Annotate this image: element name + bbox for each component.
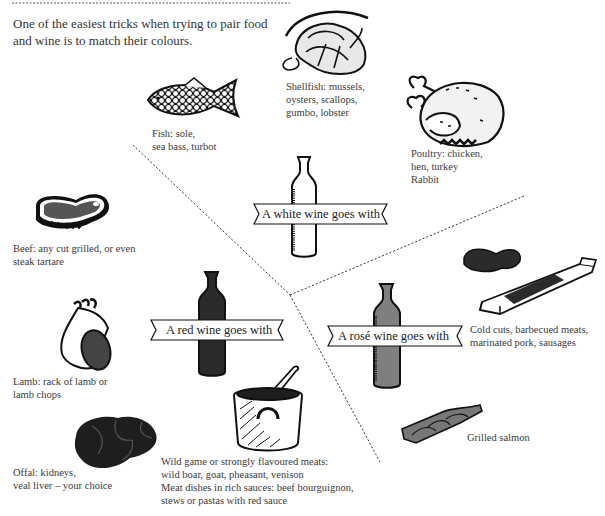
shellfish-caption: Shellfish: mussels, oysters, scallops, g…: [286, 80, 365, 119]
poultry-caption: Poultry: chicken, hen, turkey Rabbit: [411, 147, 483, 186]
red-wine-label: A red wine goes with: [162, 323, 276, 338]
steak-icon: [30, 190, 115, 236]
lamb-caption: Lamb: rack of lamb or lamb chops: [13, 375, 107, 401]
intro-line-2: and wine is to match their colours.: [13, 32, 303, 49]
stew-pot-icon: [230, 365, 306, 453]
coldcuts-caption: Cold cuts, barbecued meats, marinated po…: [470, 323, 588, 349]
white-wine-banner: A white wine goes with: [253, 203, 388, 225]
fish-caption: Fish: sole, sea bass, turbot: [152, 127, 216, 153]
shellfish-icon: [278, 8, 378, 80]
offal-icon: [72, 412, 160, 474]
grilled-salmon-icon: [400, 403, 484, 445]
intro-line-1: One of the easiest tricks when trying to…: [13, 15, 303, 32]
red-wine-banner: A red wine goes with: [150, 319, 284, 341]
lamb-rack-icon: [52, 298, 116, 374]
game-caption: Wild game or strongly flavoured meats: w…: [161, 455, 354, 507]
beef-caption: Beef: any cut grilled, or even steak tar…: [13, 242, 135, 268]
roast-chicken-icon: [400, 70, 510, 150]
rose-wine-label: A rosé wine goes with: [334, 329, 453, 344]
intro-text: One of the easiest tricks when trying to…: [13, 15, 303, 49]
fish-icon: [144, 76, 244, 122]
sausage-board-icon: [460, 244, 600, 316]
white-wine-label: A white wine goes with: [258, 207, 384, 222]
rose-wine-banner: A rosé wine goes with: [327, 325, 463, 347]
